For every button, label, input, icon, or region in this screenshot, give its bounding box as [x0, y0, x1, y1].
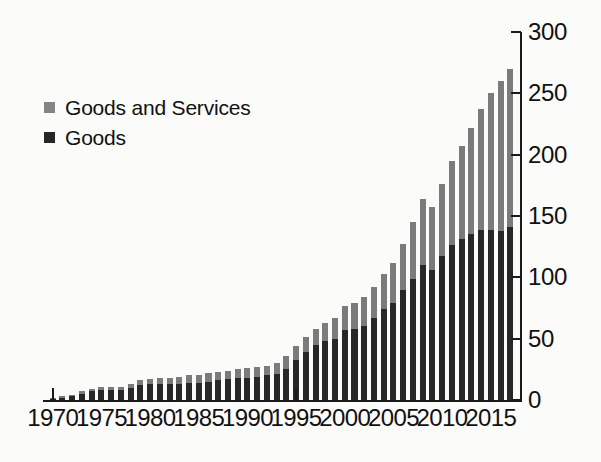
- bar-segment-goods: [459, 239, 465, 400]
- chart-legend: Goods and Services Goods: [44, 92, 251, 152]
- x-axis-tick-label: 2005: [368, 406, 419, 430]
- bar-group: [322, 323, 328, 400]
- bar-segment-goods: [371, 318, 377, 400]
- bar-group: [186, 375, 192, 400]
- bar-group: [176, 377, 182, 400]
- bar-segment-goods: [98, 390, 104, 400]
- bar-segment-services: [449, 161, 455, 246]
- bar-group: [459, 146, 465, 400]
- x-axis-tick-label: 1995: [271, 406, 322, 430]
- bar-segment-goods: [118, 390, 124, 400]
- bar-segment-services: [205, 373, 211, 382]
- y-axis-tick: [511, 154, 521, 156]
- y-axis-tick-label: 300: [528, 20, 567, 44]
- bar-segment-goods: [410, 279, 416, 400]
- bar-segment-goods: [108, 390, 114, 400]
- x-axis-tick: [52, 388, 54, 401]
- y-axis-tick: [511, 399, 521, 401]
- bar-segment-services: [410, 222, 416, 278]
- bar-segment-goods: [225, 379, 231, 400]
- legend-swatch-icon-goods: [44, 132, 55, 143]
- bar-group: [108, 387, 114, 400]
- bar-segment-goods: [264, 375, 270, 400]
- bar-segment-goods: [439, 256, 445, 400]
- bar-segment-services: [459, 146, 465, 239]
- bar-group: [371, 287, 377, 400]
- x-axis-tick-label: 2010: [417, 406, 468, 430]
- legend-label-goods-and-services: Goods and Services: [65, 97, 251, 118]
- bar-segment-goods: [332, 339, 338, 400]
- bar-group: [429, 207, 435, 400]
- bar-group: [225, 371, 231, 400]
- x-axis-tick-label: 2000: [319, 406, 370, 430]
- bar-group: [196, 375, 202, 400]
- bar-segment-goods: [390, 303, 396, 400]
- bar-segment-services: [254, 367, 260, 377]
- bar-segment-services: [420, 199, 426, 265]
- bar-segment-goods: [303, 352, 309, 400]
- bar-group: [400, 244, 406, 400]
- bar-group: [79, 391, 85, 400]
- bar-segment-services: [235, 369, 241, 378]
- bar-segment-goods: [361, 326, 367, 400]
- bar-segment-services: [303, 337, 309, 352]
- bar-segment-goods: [196, 383, 202, 400]
- bar-segment-services: [274, 363, 280, 374]
- bar-segment-services: [478, 109, 484, 229]
- bar-segment-services: [264, 366, 270, 376]
- bar-group: [264, 366, 270, 400]
- bar-group: [98, 387, 104, 400]
- y-axis-tick-label: 50: [528, 327, 554, 351]
- legend-item-goods-and-services: Goods and Services: [44, 92, 251, 122]
- bar-segment-services: [176, 377, 182, 384]
- bar-segment-services: [390, 263, 396, 303]
- bar-segment-services: [186, 375, 192, 382]
- x-axis-tick-label: 1970: [27, 406, 78, 430]
- bar-group: [118, 387, 124, 400]
- x-axis-tick-label: 1985: [173, 406, 224, 430]
- bar-segment-goods: [498, 231, 504, 400]
- bar-segment-services: [351, 303, 357, 329]
- bar-segment-goods: [176, 384, 182, 400]
- bar-segment-goods: [400, 290, 406, 400]
- bar-segment-services: [381, 274, 387, 310]
- x-axis-tick-label: 2015: [465, 406, 516, 430]
- y-axis-tick-label: 200: [528, 143, 567, 167]
- bar-segment-goods: [468, 234, 474, 400]
- bar-group: [283, 356, 289, 400]
- bar-segment-goods: [420, 265, 426, 400]
- plot-area: [43, 32, 520, 400]
- bar-group: [215, 372, 221, 400]
- bar-group: [439, 184, 445, 400]
- y-axis-tick: [511, 31, 521, 33]
- x-axis-tick-labels: 1970197519801985199019952000200520102015: [0, 406, 601, 440]
- bar-segment-goods: [449, 245, 455, 400]
- bar-segment-goods: [157, 384, 163, 400]
- bar-segment-services: [468, 128, 474, 235]
- bar-segment-services: [225, 371, 231, 380]
- bar-segment-services: [196, 375, 202, 382]
- bar-segment-services: [215, 372, 221, 381]
- bar-group: [128, 384, 134, 400]
- x-axis-tick-label: 1975: [76, 406, 127, 430]
- bar-group: [235, 369, 241, 400]
- bar-group: [205, 373, 211, 400]
- bar-group: [390, 263, 396, 400]
- bar-segment-goods: [429, 270, 435, 400]
- bar-segment-goods: [147, 384, 153, 400]
- bar-segment-goods: [283, 369, 289, 400]
- bar-segment-goods: [244, 378, 250, 400]
- bar-segment-services: [439, 184, 445, 256]
- legend-label-goods: Goods: [65, 127, 126, 148]
- bar-segment-services: [342, 306, 348, 331]
- bar-segment-goods: [137, 385, 143, 400]
- bar-segment-goods: [274, 374, 280, 400]
- bar-group: [342, 306, 348, 400]
- bar-segment-goods: [488, 230, 494, 401]
- legend-item-goods: Goods: [44, 122, 251, 152]
- bar-segment-goods: [313, 345, 319, 400]
- bar-segment-goods: [128, 388, 134, 400]
- x-axis-tick: [295, 388, 297, 401]
- bar-group: [507, 69, 513, 400]
- bar-group: [488, 93, 494, 400]
